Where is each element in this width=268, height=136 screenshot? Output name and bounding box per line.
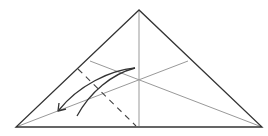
diagonal-crease-right [90,61,262,127]
diagonal-crease-left [16,61,188,127]
origami-diagram [0,0,268,136]
valley-fold-line [78,69,136,126]
